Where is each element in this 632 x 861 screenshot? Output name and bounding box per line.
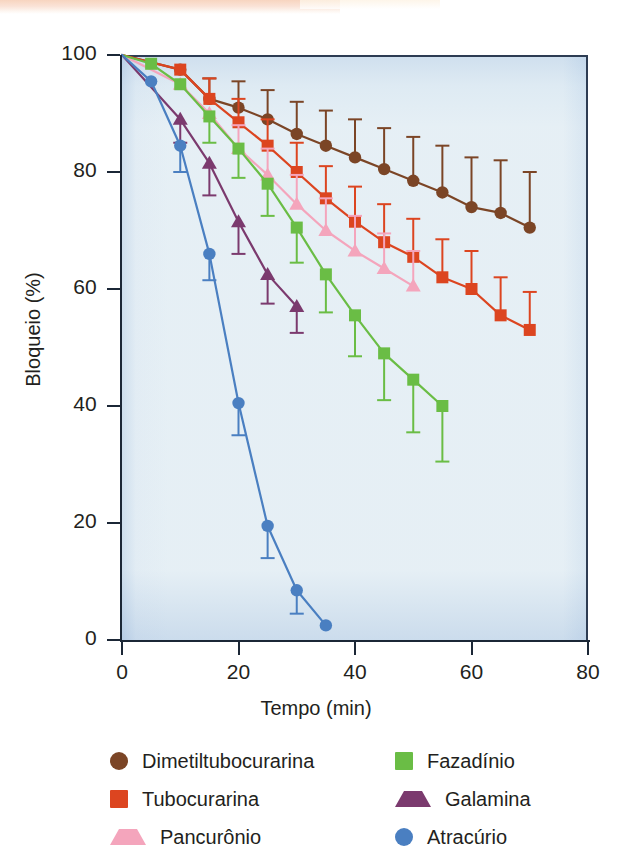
- y-tick-mark: [107, 288, 120, 290]
- legend-item-fazadínio[interactable]: Fazadínio: [395, 750, 595, 773]
- data-point-marker: [348, 243, 363, 256]
- legend-triangle-marker-icon: [395, 791, 431, 807]
- data-point-marker: [495, 309, 507, 321]
- series-tubocurarina: [122, 55, 537, 336]
- data-point-marker: [320, 268, 332, 280]
- legend-item-dimetiltubocurarina[interactable]: Dimetiltubocurarina: [110, 750, 395, 773]
- data-point-marker: [378, 163, 390, 175]
- legend-label: Pancurônio: [160, 826, 261, 849]
- data-point-marker: [262, 178, 274, 190]
- chart-legend: DimetiltubocurarinaFazadínioTubocurarina…: [110, 742, 590, 856]
- data-point-marker: [436, 271, 448, 283]
- data-point-marker: [174, 64, 186, 76]
- data-point-marker: [436, 400, 448, 412]
- y-tick-label: 0: [45, 626, 97, 650]
- data-point-marker: [524, 324, 536, 336]
- y-tick-mark: [107, 54, 120, 56]
- legend-label: Galamina: [445, 788, 531, 811]
- legend-item-tubocurarina[interactable]: Tubocurarina: [110, 788, 395, 811]
- x-tick-mark: [471, 642, 473, 655]
- series-layer: [122, 55, 588, 640]
- data-point-marker: [377, 261, 392, 274]
- data-point-marker: [145, 75, 157, 87]
- data-point-marker: [145, 58, 157, 70]
- data-point-marker: [349, 309, 361, 321]
- x-tick-mark: [354, 642, 356, 655]
- y-tick-mark: [107, 522, 120, 524]
- series-fazadínio: [122, 55, 449, 462]
- data-point-marker: [407, 175, 419, 187]
- data-point-marker: [232, 397, 244, 409]
- data-point-marker: [202, 156, 217, 169]
- y-tick-label: 80: [45, 158, 97, 182]
- data-point-marker: [203, 248, 215, 260]
- data-point-marker: [261, 520, 273, 532]
- legend-square-marker-icon: [110, 790, 128, 808]
- legend-circle-marker-icon: [395, 828, 413, 846]
- data-point-marker: [203, 93, 215, 105]
- x-tick-label: 40: [325, 660, 385, 684]
- data-point-marker: [378, 347, 390, 359]
- data-point-marker: [291, 222, 303, 234]
- plot-area: [122, 55, 588, 640]
- legend-item-galamina[interactable]: Galamina: [395, 788, 595, 811]
- x-tick-label: 20: [209, 660, 269, 684]
- y-tick-mark: [107, 639, 120, 641]
- x-tick-label: 0: [92, 660, 152, 684]
- legend-label: Fazadínio: [427, 750, 515, 773]
- series-line: [122, 55, 326, 625]
- x-tick-mark: [587, 642, 589, 655]
- y-tick-label: 100: [45, 41, 97, 65]
- data-point-marker: [407, 374, 419, 386]
- legend-square-marker-icon: [395, 752, 413, 770]
- series-atracúrio: [122, 55, 332, 632]
- data-point-marker: [291, 584, 303, 596]
- data-point-marker: [349, 151, 361, 163]
- data-point-marker: [291, 128, 303, 140]
- x-tick-mark: [121, 642, 123, 655]
- legend-label: Dimetiltubocurarina: [142, 750, 314, 773]
- data-point-marker: [466, 283, 478, 295]
- data-point-marker: [436, 186, 448, 198]
- y-tick-label: 20: [45, 509, 97, 533]
- y-tick-mark: [107, 171, 120, 173]
- x-tick-label: 80: [558, 660, 618, 684]
- data-point-marker: [406, 279, 421, 292]
- data-point-marker: [320, 139, 332, 151]
- data-point-marker: [231, 214, 246, 227]
- data-point-marker: [494, 207, 506, 219]
- data-point-marker: [203, 110, 215, 122]
- legend-triangle-marker-icon: [110, 829, 146, 845]
- legend-label: Atracúrio: [427, 826, 507, 849]
- x-tick-mark: [238, 642, 240, 655]
- data-point-marker: [465, 201, 477, 213]
- data-point-marker: [174, 139, 186, 151]
- y-axis-label: Bloqueio (%): [22, 180, 45, 480]
- y-tick-label: 60: [45, 275, 97, 299]
- y-tick-mark: [107, 405, 120, 407]
- x-tick-label: 60: [442, 660, 502, 684]
- legend-label: Tubocurarina: [142, 788, 259, 811]
- y-tick-label: 40: [45, 392, 97, 416]
- data-point-marker: [174, 78, 186, 90]
- legend-item-pancurônio[interactable]: Pancurônio: [110, 826, 395, 849]
- data-point-marker: [233, 143, 245, 155]
- legend-circle-marker-icon: [110, 752, 128, 770]
- x-axis-label: Tempo (min): [0, 697, 632, 720]
- y-axis-line: [120, 55, 122, 642]
- chart-figure: 020406080100 020406080 Tempo (min) Bloqu…: [0, 0, 632, 861]
- data-point-marker: [320, 619, 332, 631]
- legend-item-atracúrio[interactable]: Atracúrio: [395, 826, 595, 849]
- data-point-marker: [260, 267, 275, 280]
- data-point-marker: [524, 221, 536, 233]
